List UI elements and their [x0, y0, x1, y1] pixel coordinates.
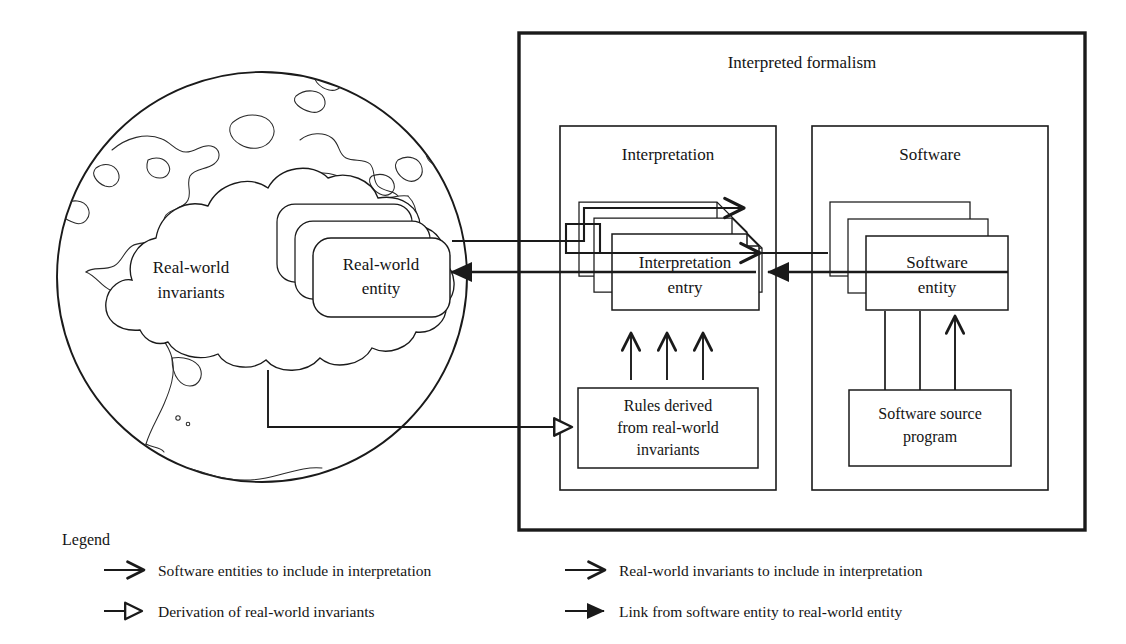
diagram-svg: Real-world invariants Real-world entity … [0, 0, 1126, 644]
software-panel-label: Software [899, 145, 960, 164]
cloud-label-line1: Real-world [153, 258, 230, 277]
legend-label-sw-entities-include: Software entities to include in interpre… [158, 562, 432, 579]
interpretation-entry-label-line2: entry [668, 278, 703, 297]
software-entity-label-line2: entity [918, 278, 957, 297]
rules-label-line2: from real-world [617, 419, 719, 436]
interpretation-entry-stack[interactable]: Interpretation entry [579, 202, 762, 310]
legend-label-rw-invariants-include: Real-world invariants to include in inte… [619, 562, 923, 579]
interpreted-formalism-label: Interpreted formalism [728, 53, 877, 72]
rules-label-line3: invariants [636, 441, 699, 458]
real-world-entity-front[interactable] [313, 238, 450, 317]
software-entity-stack[interactable]: Software entity [830, 202, 1008, 310]
interpretation-panel-label: Interpretation [622, 145, 715, 164]
connector-source-to-software-entity [885, 311, 955, 390]
cloud-label-line2: invariants [157, 283, 224, 302]
real-world-entity-label-line1: Real-world [343, 255, 420, 274]
software-entity-label-line1: Software [906, 253, 967, 272]
globe-group: Real-world invariants Real-world entity [57, 57, 467, 495]
legend-label-link-sw-to-rw: Link from software entity to real-world … [619, 603, 902, 620]
source-label-line2: program [903, 428, 958, 446]
figure-canvas: Real-world invariants Real-world entity … [0, 0, 1126, 644]
rules-label-line1: Rules derived [624, 397, 712, 414]
real-world-entity-label-line2: entity [362, 279, 401, 298]
interpretation-entry-label-line1: Interpretation [639, 253, 732, 272]
legend-title: Legend [62, 531, 110, 549]
source-label-line1: Software source [878, 405, 982, 422]
connector-rules-to-interpretation-entry [631, 333, 703, 380]
legend-label-derivation: Derivation of real-world invariants [158, 603, 375, 620]
